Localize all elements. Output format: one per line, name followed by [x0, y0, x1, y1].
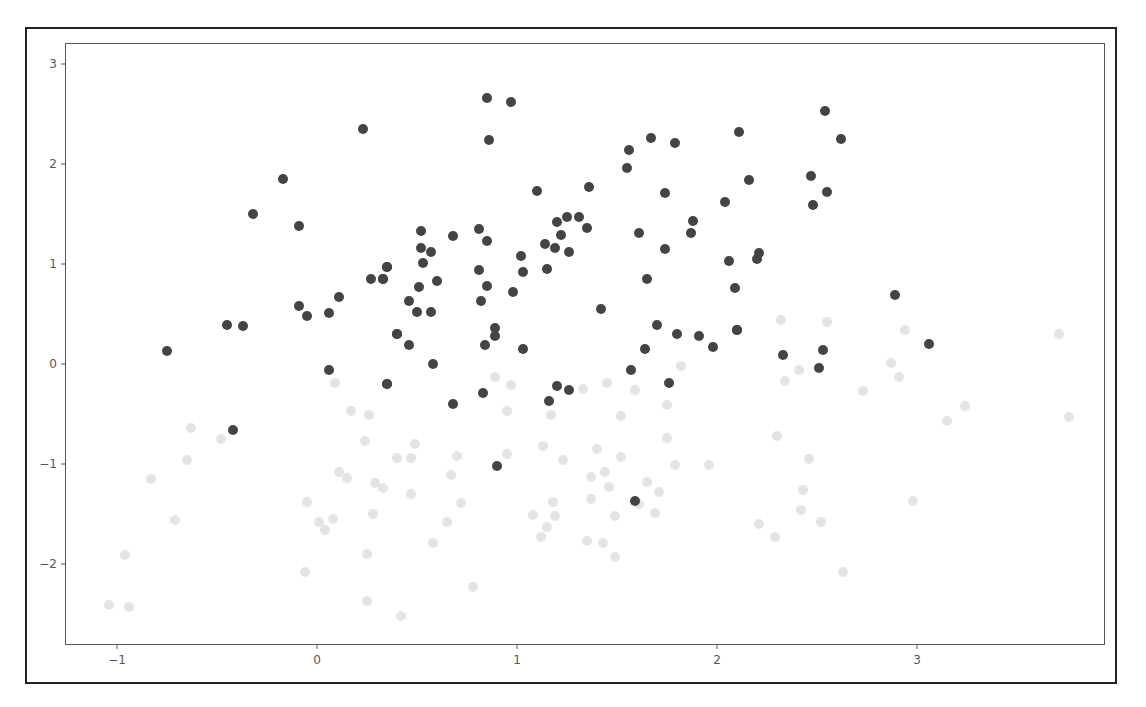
- data-point: [426, 247, 436, 257]
- data-point: [294, 221, 304, 231]
- x-tick-label: 2: [713, 653, 721, 667]
- data-point: [442, 517, 452, 527]
- data-point: [694, 331, 704, 341]
- data-point: [532, 186, 542, 196]
- x-tick-label: 3: [913, 653, 921, 667]
- data-point: [776, 315, 786, 325]
- data-point: [598, 538, 608, 548]
- y-axis-ticks: −2−10123: [39, 57, 65, 571]
- data-point: [770, 532, 780, 542]
- data-point: [362, 549, 372, 559]
- data-point: [582, 536, 592, 546]
- series-light-points: [104, 315, 1074, 621]
- data-point: [404, 340, 414, 350]
- data-point: [900, 325, 910, 335]
- data-point: [392, 453, 402, 463]
- data-point: [484, 135, 494, 145]
- data-point: [642, 477, 652, 487]
- data-point: [664, 378, 674, 388]
- data-point: [730, 283, 740, 293]
- data-point: [320, 525, 330, 535]
- data-point: [314, 517, 324, 527]
- data-point: [366, 274, 376, 284]
- data-point: [960, 401, 970, 411]
- data-point: [886, 358, 896, 368]
- data-point: [426, 307, 436, 317]
- data-point: [796, 505, 806, 515]
- data-point: [838, 567, 848, 577]
- data-point: [676, 361, 686, 371]
- data-point: [552, 217, 562, 227]
- data-point: [558, 455, 568, 465]
- data-point: [822, 187, 832, 197]
- data-point: [474, 265, 484, 275]
- data-point: [592, 444, 602, 454]
- data-point: [518, 344, 528, 354]
- data-point: [616, 411, 626, 421]
- data-point: [482, 236, 492, 246]
- data-point: [482, 281, 492, 291]
- data-point: [942, 416, 952, 426]
- data-point: [604, 482, 614, 492]
- data-point: [104, 600, 114, 610]
- data-point: [652, 320, 662, 330]
- data-point: [120, 550, 130, 560]
- data-point: [382, 262, 392, 272]
- data-point: [564, 247, 574, 257]
- data-point: [732, 325, 742, 335]
- data-point: [640, 344, 650, 354]
- data-point: [924, 339, 934, 349]
- data-point: [414, 282, 424, 292]
- y-tick-label: 2: [49, 157, 57, 171]
- data-point: [368, 509, 378, 519]
- data-point: [586, 494, 596, 504]
- data-point: [506, 97, 516, 107]
- data-point: [806, 171, 816, 181]
- data-point: [562, 212, 572, 222]
- data-point: [476, 296, 486, 306]
- x-tick-label: −1: [108, 653, 126, 667]
- data-point: [744, 175, 754, 185]
- data-point: [772, 431, 782, 441]
- data-point: [404, 296, 414, 306]
- data-point: [222, 320, 232, 330]
- data-point: [528, 510, 538, 520]
- data-point: [704, 460, 714, 470]
- scatter-plot: −10123 −2−10123: [0, 0, 1146, 707]
- data-point: [330, 378, 340, 388]
- data-point: [506, 380, 516, 390]
- data-point: [516, 251, 526, 261]
- data-point: [908, 496, 918, 506]
- y-tick-label: 0: [49, 357, 57, 371]
- data-point: [752, 254, 762, 264]
- data-point: [334, 467, 344, 477]
- data-point: [544, 396, 554, 406]
- data-point: [482, 93, 492, 103]
- data-point: [378, 483, 388, 493]
- data-point: [670, 138, 680, 148]
- data-point: [228, 425, 238, 435]
- data-point: [392, 329, 402, 339]
- data-point: [456, 498, 466, 508]
- data-point: [536, 532, 546, 542]
- data-point: [334, 292, 344, 302]
- data-point: [610, 511, 620, 521]
- data-point: [596, 304, 606, 314]
- data-point: [564, 385, 574, 395]
- data-point: [654, 487, 664, 497]
- data-point: [720, 197, 730, 207]
- x-tick-label: 0: [313, 653, 321, 667]
- data-point: [502, 449, 512, 459]
- data-point: [646, 133, 656, 143]
- data-point: [518, 267, 528, 277]
- data-point: [328, 514, 338, 524]
- data-point: [630, 385, 640, 395]
- data-point: [548, 497, 558, 507]
- data-point: [186, 423, 196, 433]
- data-point: [418, 258, 428, 268]
- data-point: [686, 228, 696, 238]
- data-point: [542, 522, 552, 532]
- data-point: [468, 582, 478, 592]
- data-point: [428, 538, 438, 548]
- data-point: [818, 345, 828, 355]
